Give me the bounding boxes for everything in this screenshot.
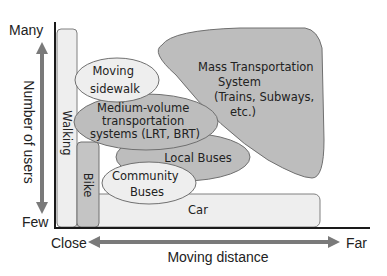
arrow-down-icon: [36, 202, 48, 214]
y-bottom-label: Few: [22, 214, 49, 230]
walking-label: Walking: [60, 110, 74, 155]
local-buses-label: Local Buses: [164, 151, 232, 165]
bike-label: Bike: [81, 173, 95, 197]
arrow-up-icon: [36, 42, 48, 54]
x-left-label: Close: [51, 235, 87, 251]
x-right-label: Far: [346, 235, 367, 251]
car-label: Car: [188, 203, 208, 217]
arrow-right-icon: [328, 236, 340, 248]
x-axis-title: Moving distance: [167, 249, 268, 265]
medium-volume-label: Medium-volume transportation systems (LR…: [90, 101, 200, 141]
arrow-left-icon: [88, 236, 100, 248]
transport-diagram: Many Few Number of users Close Far Movin…: [0, 0, 387, 276]
y-top-label: Many: [9, 22, 43, 38]
y-axis-title: Number of users: [21, 80, 37, 183]
